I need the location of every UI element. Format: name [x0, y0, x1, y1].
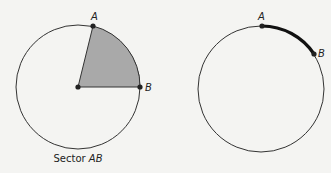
sector-caption: Sector AB [53, 153, 102, 164]
arc-ab [262, 26, 314, 54]
label-b: B [145, 82, 152, 93]
sector-shape [78, 26, 140, 87]
point-a [259, 23, 264, 28]
sector-figure: A B Sector AB [16, 11, 152, 164]
label-b: B [318, 48, 325, 59]
point-a [90, 23, 95, 28]
label-a: A [257, 11, 265, 22]
label-a: A [90, 11, 98, 22]
point-b [137, 84, 142, 89]
arc-figure: A B [198, 11, 325, 152]
point-b [311, 51, 316, 56]
center-point [75, 84, 80, 89]
diagram-canvas: A B Sector AB A B [0, 0, 331, 173]
